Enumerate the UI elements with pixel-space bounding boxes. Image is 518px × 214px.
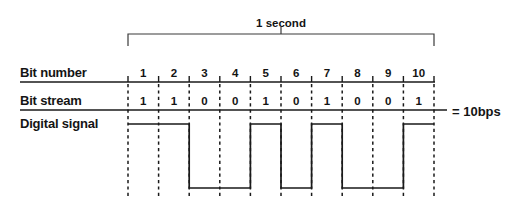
bit-number-7: 7 [324, 67, 330, 79]
bit-value-6: 0 [293, 95, 299, 107]
bit-rate-label: = 10bps [452, 104, 501, 119]
bit-number-5: 5 [262, 67, 269, 79]
bit-number-2: 2 [171, 67, 177, 79]
duration-bracket [128, 34, 434, 46]
bit-value-2: 1 [171, 95, 178, 107]
digital-signal-waveform [128, 124, 434, 188]
bit-numbers-group: 12345678910 [140, 67, 425, 79]
bit-number-row-label: Bit number [20, 65, 87, 80]
bit-number-4: 4 [232, 67, 239, 79]
digital-signal-row-label: Digital signal [20, 116, 98, 131]
bit-number-1: 1 [140, 67, 147, 79]
bit-number-3: 3 [201, 67, 207, 79]
timing-diagram: 1 second Bit number Bit stream Digital s… [0, 0, 518, 214]
bit-value-10: 1 [415, 95, 422, 107]
bit-value-8: 0 [354, 95, 360, 107]
row-labels-group: Bit number Bit stream Digital signal [20, 65, 98, 131]
bit-number-10: 10 [412, 67, 425, 79]
bit-number-8: 8 [354, 67, 361, 79]
bit-value-4: 0 [232, 95, 238, 107]
bit-value-7: 1 [324, 95, 331, 107]
duration-label: 1 second [256, 17, 306, 29]
bit-value-3: 0 [201, 95, 207, 107]
bit-number-9: 9 [385, 67, 391, 79]
bit-number-6: 6 [293, 67, 299, 79]
bit-value-5: 1 [262, 95, 269, 107]
bit-value-9: 0 [385, 95, 391, 107]
timing-diagram-canvas: 1 second Bit number Bit stream Digital s… [0, 0, 518, 214]
duration-bracket-group: 1 second [128, 17, 434, 46]
bit-stream-row-label: Bit stream [20, 93, 82, 108]
bit-value-1: 1 [140, 95, 147, 107]
